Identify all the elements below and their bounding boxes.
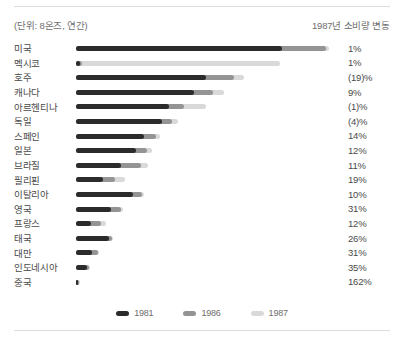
bar-area [76,172,342,187]
change-percent: (19)% [348,70,404,85]
change-percent: 1% [348,56,404,71]
change-percent: 162% [348,275,404,290]
bar-segment-1981 [76,104,169,109]
bar-track [76,207,342,212]
country-label: 인도네시아 [14,260,74,275]
bottom-divider [14,330,390,331]
bar-segment-1981 [76,192,133,197]
chart-row: 스페인14% [14,129,390,144]
bar-segment-1981 [76,207,111,212]
chart-row: 브라질11% [14,158,390,173]
change-percent: (1)% [348,99,404,114]
change-percent: 35% [348,260,404,275]
legend-item: 1981 [116,308,153,318]
chart-row: 독일(4)% [14,114,390,129]
bar-area [76,70,342,85]
chart-page: (단위: 8온즈, 연간) 1987년 소비량 변동 미국1%멕시코1%호주(1… [0,0,404,344]
change-percent: 19% [348,172,404,187]
bar-track [76,119,342,124]
bar-track [76,250,342,255]
change-percent: 10% [348,187,404,202]
country-label: 캐나다 [14,85,74,100]
country-label: 브라질 [14,158,74,173]
bar-track [76,134,342,139]
bar-segment-1981 [76,90,194,95]
bar-track [76,148,342,153]
chart-legend: 198119861987 [14,306,390,320]
bar-track [76,61,342,66]
country-label: 독일 [14,114,74,129]
bar-area [76,143,342,158]
country-label: 태국 [14,231,74,246]
bar-chart-rows: 미국1%멕시코1%호주(19)%캐나다9%아르헨티나(1)%독일(4)%스페인1… [14,41,390,289]
unit-note: (단위: 8온즈, 연간) [14,18,88,32]
legend-item: 1987 [251,308,288,318]
change-percent: 1% [348,41,404,56]
country-label: 스페인 [14,129,74,144]
legend-swatch-icon [251,311,264,316]
change-column-header: 1987년 소비량 변동 [312,18,390,32]
change-percent: 12% [348,143,404,158]
country-label: 미국 [14,41,74,56]
legend-swatch-icon [183,311,196,316]
chart-row: 이탈리아10% [14,187,390,202]
chart-row: 필리핀19% [14,172,390,187]
bar-track [76,163,342,168]
chart-row: 대만31% [14,245,390,260]
bar-area [76,275,342,290]
change-percent: 26% [348,231,404,246]
country-label: 이탈리아 [14,187,74,202]
legend-item: 1986 [183,308,220,318]
bar-track [76,75,342,80]
bar-area [76,99,342,114]
bar-area [76,85,342,100]
chart-row: 중국162% [14,275,390,290]
top-divider [14,6,390,7]
bar-segment-1981 [76,75,206,80]
bar-track [76,104,342,109]
bar-segment-1987 [76,61,280,66]
chart-row: 멕시코1% [14,56,390,71]
legend-label: 1986 [201,308,220,318]
chart-row: 인도네시아35% [14,260,390,275]
bar-area [76,158,342,173]
change-percent: 11% [348,158,404,173]
bar-track [76,90,342,95]
bar-area [76,187,342,202]
country-label: 아르헨티나 [14,99,74,114]
change-percent: 31% [348,202,404,217]
change-percent: 14% [348,129,404,144]
bar-area [76,41,342,56]
bar-segment-1981 [76,46,282,51]
change-percent: 12% [348,216,404,231]
bar-segment-1981 [76,265,87,270]
country-label: 프랑스 [14,216,74,231]
bar-segment-1981 [76,221,91,226]
bar-segment-1981 [76,250,92,255]
bar-track [76,221,342,226]
bar-track [76,265,342,270]
bar-segment-1981 [76,163,121,168]
chart-row: 미국1% [14,41,390,56]
change-percent: 9% [348,85,404,100]
bar-segment-1981 [76,177,103,182]
chart-row: 프랑스12% [14,216,390,231]
country-label: 호주 [14,70,74,85]
bar-track [76,192,342,197]
chart-header: (단위: 8온즈, 연간) 1987년 소비량 변동 [14,18,390,34]
bar-area [76,56,342,71]
bar-segment-1981 [76,61,80,66]
country-label: 중국 [14,275,74,290]
change-percent: (4)% [348,114,404,129]
bar-segment-1981 [76,236,109,241]
legend-label: 1987 [269,308,288,318]
bar-track [76,280,342,285]
change-percent: 31% [348,245,404,260]
country-label: 필리핀 [14,172,74,187]
country-label: 대만 [14,245,74,260]
legend-swatch-icon [116,311,129,316]
chart-row: 일본12% [14,143,390,158]
bar-area [76,231,342,246]
country-label: 일본 [14,143,74,158]
chart-row: 호주(19)% [14,70,390,85]
